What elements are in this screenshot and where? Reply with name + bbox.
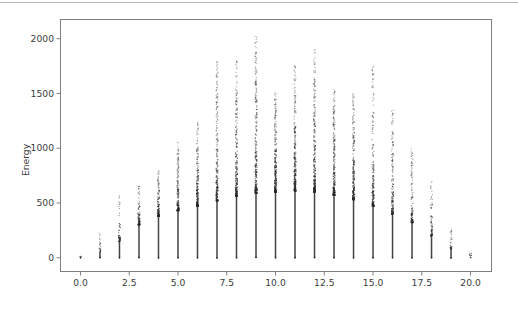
x-tick-label: 12.5 [314,277,335,288]
x-axis-tick-labels: 0.02.55.07.510.012.515.017.520.0 [73,277,481,288]
y-axis-title: Energy [20,143,31,176]
x-tick-label: 15.0 [363,277,384,288]
y-tick-label: 2000 [31,33,55,44]
x-axis-ticks [80,272,470,276]
x-tick-label: 7.5 [219,277,234,288]
y-tick-label: 0 [48,252,54,263]
y-axis-ticks [57,39,61,258]
x-tick-label: 10.0 [265,277,286,288]
y-tick-label: 500 [36,197,54,208]
x-tick-label: 17.5 [412,277,433,288]
x-tick-label: 0.0 [73,277,88,288]
scatter-plot-canvas: 0.02.55.07.510.012.515.017.520.0 0500100… [0,0,518,311]
matplotlib-figure: 0.02.55.07.510.012.515.017.520.0 0500100… [0,0,518,311]
data-points [79,36,472,259]
x-tick-label: 20.0 [460,277,481,288]
x-tick-label: 5.0 [171,277,186,288]
x-tick-label: 2.5 [122,277,137,288]
y-axis-tick-labels: 0500100015002000 [31,33,55,263]
y-tick-label: 1500 [31,88,55,99]
y-tick-label: 1000 [31,142,55,153]
